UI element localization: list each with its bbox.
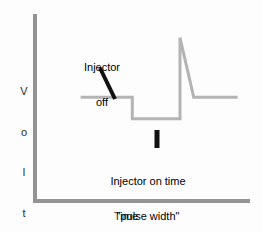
y-axis-label-letter: o: [16, 126, 32, 140]
annotation-pulse-width-line: Injector on time: [92, 176, 204, 188]
y-axis-label-letter: V: [16, 85, 32, 99]
injector-pulse-width-diagram: V o l t a g e Time Injector off Injector…: [0, 0, 263, 232]
y-axis-label-letter: t: [16, 207, 32, 221]
annotation-pulse-width-line: "pulse width": [92, 211, 204, 223]
annotation-injector-off: Injector off: [76, 38, 128, 133]
y-axis-label: V o l t a g e: [16, 58, 32, 232]
annotation-pulse-width: Injector on time "pulse width": [92, 152, 204, 232]
annotation-injector-off-line: off: [76, 97, 128, 109]
y-axis-label-letter: l: [16, 166, 32, 180]
annotation-injector-off-line: Injector: [76, 62, 128, 74]
